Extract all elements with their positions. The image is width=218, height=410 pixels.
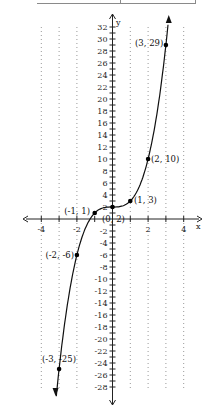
y-tick-label: 24 bbox=[97, 71, 107, 80]
y-tick-label: 10 bbox=[97, 155, 107, 164]
y-tick-label: -2 bbox=[100, 227, 108, 236]
y-tick-label: -14 bbox=[95, 299, 108, 308]
y-tick-label: -22 bbox=[95, 347, 108, 356]
x-tick-label: -4 bbox=[37, 225, 45, 234]
curve-top-arrow-icon bbox=[166, 15, 172, 23]
y-tick-label: 26 bbox=[97, 59, 107, 68]
x-tick-label: 2 bbox=[146, 225, 151, 234]
y-tick-label: -8 bbox=[100, 263, 108, 272]
y-tick-label: 32 bbox=[97, 23, 107, 32]
point-label: (-1, 1) bbox=[64, 206, 90, 216]
point-label: (0, 2) bbox=[102, 214, 125, 224]
y-axis-label: y bbox=[115, 18, 121, 27]
axes bbox=[23, 14, 202, 405]
y-tick-label: -28 bbox=[95, 383, 108, 392]
cubic-function-graph: 3230282624222018161412108642-2-4-6-8-10-… bbox=[0, 0, 218, 410]
y-tick-label: 12 bbox=[97, 143, 107, 152]
data-point bbox=[110, 205, 115, 210]
y-tick-label: -20 bbox=[95, 335, 108, 344]
y-tick-label: -16 bbox=[95, 311, 108, 320]
y-tick-label: -4 bbox=[100, 239, 108, 248]
y-tick-label: -12 bbox=[95, 287, 108, 296]
y-tick-label: 20 bbox=[97, 95, 107, 104]
y-tick-label: 6 bbox=[102, 179, 107, 188]
y-tick-label: 28 bbox=[97, 47, 107, 56]
y-tick-label: -26 bbox=[95, 371, 108, 380]
y-tick-label: 22 bbox=[97, 83, 107, 92]
y-tick-label: -24 bbox=[95, 359, 108, 368]
data-point bbox=[146, 157, 151, 162]
point-label: (2, 10) bbox=[151, 154, 179, 164]
x-axis-tick-labels: -4-224 bbox=[37, 225, 186, 234]
data-point bbox=[128, 199, 133, 204]
y-tick-label: -18 bbox=[95, 323, 108, 332]
y-tick-label: -6 bbox=[100, 251, 108, 260]
y-tick-label: 4 bbox=[102, 191, 107, 200]
x-axis-label: x bbox=[196, 222, 201, 231]
point-label: (-2, -6) bbox=[45, 250, 74, 260]
data-point bbox=[92, 211, 97, 216]
x-tick-label: 4 bbox=[181, 225, 186, 234]
data-point bbox=[164, 43, 169, 48]
point-label: (1, 3) bbox=[134, 195, 157, 205]
data-point bbox=[75, 253, 80, 258]
point-label: (3, 29) bbox=[135, 38, 163, 48]
y-tick-label: -10 bbox=[95, 275, 108, 284]
data-point bbox=[57, 367, 62, 372]
curve-bottom-arrow-icon bbox=[53, 388, 59, 396]
x-tick-label: -2 bbox=[73, 225, 81, 234]
y-tick-label: 16 bbox=[97, 119, 107, 128]
point-label: (-3, -25) bbox=[42, 354, 76, 364]
y-tick-label: 14 bbox=[97, 131, 107, 140]
y-tick-label: 30 bbox=[97, 35, 107, 44]
y-tick-label: 8 bbox=[102, 167, 107, 176]
y-tick-label: 18 bbox=[97, 107, 107, 116]
